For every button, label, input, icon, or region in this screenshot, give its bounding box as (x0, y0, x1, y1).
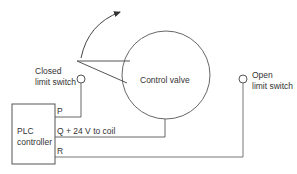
open-switch-label-line1: Open (252, 70, 273, 80)
closed-limit-switch-icon (77, 75, 85, 83)
motion-arrow-icon (81, 12, 120, 58)
open-limit-switch-icon (239, 75, 247, 83)
wire-r (55, 83, 243, 157)
closed-switch-label-line1: Closed (35, 66, 61, 76)
terminal-r-label: R (57, 146, 63, 156)
terminal-q-label: Q + 24 V to coil (57, 126, 115, 136)
plc-label-line2: controller (17, 137, 52, 147)
terminal-p-label: P (57, 106, 63, 116)
plc-label-line1: PLC (17, 126, 34, 136)
open-switch-label-line2: limit switch (252, 81, 293, 91)
valve-label: Control valve (140, 75, 190, 85)
closed-switch-label-line2: limit switch (35, 77, 76, 87)
